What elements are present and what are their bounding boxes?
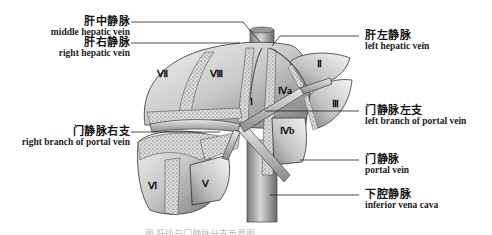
label-middle-hepatic-vein: 肝中静脉 middle hepatic vein [51,16,130,38]
label-en: portal vein [365,166,409,176]
label-zh: 门静脉右支 [22,126,130,137]
label-en: left hepatic vein [365,42,429,52]
segment-i-label: Ⅰ [250,96,253,107]
label-en: right branch of portal vein [22,138,130,148]
label-zh: 肝右静脉 [59,37,130,48]
label-portal-vein: 门静脉 portal vein [365,154,409,176]
label-inferior-vena-cava: 下腔静脉 inferior vena cava [365,189,438,211]
figure-caption: 图 肝段与门静脉分支示意图 [145,227,255,235]
label-right-branch-portal-vein: 门静脉右支 right branch of portal vein [22,126,130,148]
segment-iva-label: Ⅳa [278,85,292,96]
segment-iii-label: Ⅲ [332,98,339,109]
lower-right-lobes [138,131,241,215]
label-right-hepatic-vein: 肝右静脉 right hepatic vein [59,37,130,59]
segment-v-label: Ⅴ [202,178,209,189]
segment-ii-label: Ⅱ [317,58,322,69]
label-zh: 肝左静脉 [365,30,429,41]
label-left-branch-portal-vein: 门静脉左支 left branch of portal vein [365,105,466,127]
label-zh: 门静脉左支 [365,105,466,116]
label-left-hepatic-vein: 肝左静脉 left hepatic vein [365,30,429,52]
label-zh: 肝中静脉 [51,16,130,27]
label-zh: 门静脉 [365,154,409,165]
label-zh: 下腔静脉 [365,189,438,200]
segment-vi-label: Ⅵ [148,180,157,191]
label-en: left branch of portal vein [365,117,466,127]
segment-viii-label: Ⅷ [210,68,223,79]
label-en: right hepatic vein [59,49,130,59]
label-en: inferior vena cava [365,201,438,211]
segment-vii-label: Ⅶ [157,68,168,79]
segment-ivb-label: Ⅳb [280,125,295,136]
